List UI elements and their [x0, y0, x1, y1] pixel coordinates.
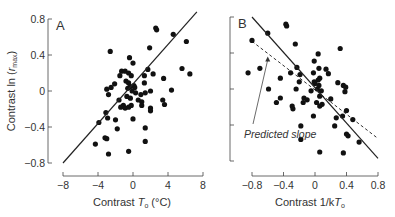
x-tick-label: 0.4 [339, 179, 354, 191]
data-point [93, 142, 98, 147]
data-point [117, 73, 122, 78]
data-point [323, 67, 328, 72]
data-point [341, 150, 346, 155]
data-point [142, 80, 147, 85]
data-point [278, 95, 283, 100]
data-point [316, 51, 321, 56]
data-point [288, 70, 293, 75]
data-point [338, 46, 343, 51]
data-point [105, 115, 110, 120]
y-tick-label: 0.4 [30, 49, 45, 61]
data-point [143, 125, 148, 130]
data-point [290, 106, 295, 111]
data-point [127, 55, 132, 60]
data-point [160, 97, 165, 102]
data-point [335, 80, 340, 85]
data-point [126, 149, 131, 154]
data-point [104, 136, 109, 141]
data-point [311, 113, 316, 118]
data-point [357, 140, 362, 145]
data-point [311, 70, 316, 75]
data-point [245, 70, 250, 75]
data-point [317, 104, 322, 109]
x-tick-label: 8 [200, 179, 206, 191]
fit-line [63, 12, 197, 163]
panel-label: A [56, 18, 65, 33]
x-tick-label: −8 [57, 179, 69, 191]
x-tick-label: −0.8 [242, 179, 263, 191]
data-point [344, 108, 349, 113]
data-point [284, 23, 289, 28]
data-point [334, 115, 339, 120]
arrowhead-icon [265, 57, 270, 62]
x-axis-label: Contrast To (°C) [93, 196, 171, 209]
y-axis-label: Contrast ln (rmax) [5, 51, 18, 132]
data-point [129, 103, 134, 108]
data-point [187, 71, 192, 76]
panel-a: −0.8−0.400.40.8−8−4048AContrast To (°C)C… [5, 12, 206, 209]
x-tick-label: 0 [130, 179, 136, 191]
data-point [151, 71, 156, 76]
panel-label: B [238, 16, 247, 31]
x-tick-label: 4 [165, 179, 171, 191]
y-tick-label: −0.4 [24, 121, 45, 133]
data-point [350, 117, 355, 122]
data-point [106, 151, 111, 156]
y-tick-label: 0 [39, 85, 45, 97]
data-point [342, 89, 347, 94]
data-point [326, 71, 331, 76]
data-point [249, 38, 254, 43]
x-axis-label: Contrast 1/kTo [275, 196, 345, 209]
data-point [147, 45, 152, 50]
data-point [143, 139, 148, 144]
data-point [106, 92, 111, 97]
data-point [143, 90, 148, 95]
data-point [293, 41, 298, 46]
data-point [130, 116, 135, 121]
data-point [129, 73, 134, 78]
data-point [257, 66, 262, 71]
data-point [169, 88, 174, 93]
x-tick-label: −4 [92, 179, 104, 191]
data-point [274, 100, 279, 105]
data-point [345, 133, 350, 138]
data-point [316, 66, 321, 71]
data-point [108, 49, 113, 54]
data-point [328, 96, 333, 101]
panel-b: −0.8−0.400.40.8BContrast 1/kToPredicted … [230, 16, 385, 209]
data-point [301, 100, 306, 105]
data-point [297, 79, 302, 84]
data-point [148, 88, 153, 93]
data-point [139, 103, 144, 108]
data-point [113, 117, 118, 122]
data-point [130, 61, 135, 66]
data-point [154, 27, 159, 32]
data-point [312, 59, 317, 64]
data-point [317, 149, 322, 154]
data-point [118, 105, 123, 110]
y-tick-label: 0.8 [30, 13, 45, 25]
data-point [332, 123, 337, 128]
data-point [115, 126, 120, 131]
data-point [278, 76, 283, 81]
data-point [148, 108, 153, 113]
data-point [104, 87, 109, 92]
annotation-label: Predicted slope [244, 128, 317, 140]
data-point [308, 88, 313, 93]
y-tick-label: −0.8 [24, 157, 45, 169]
data-point [179, 66, 184, 71]
data-point [184, 39, 189, 44]
data-point [294, 86, 299, 91]
x-tick-label: 0 [312, 179, 318, 191]
x-tick-label: 0.8 [371, 179, 386, 191]
data-point [343, 85, 348, 90]
data-point [128, 96, 133, 101]
x-tick-label: −0.4 [273, 179, 294, 191]
figure: −0.8−0.400.40.8−8−4048AContrast To (°C)C… [0, 0, 395, 217]
data-point [161, 76, 166, 81]
data-point [162, 102, 167, 107]
data-point [266, 86, 271, 91]
data-point [133, 90, 138, 95]
